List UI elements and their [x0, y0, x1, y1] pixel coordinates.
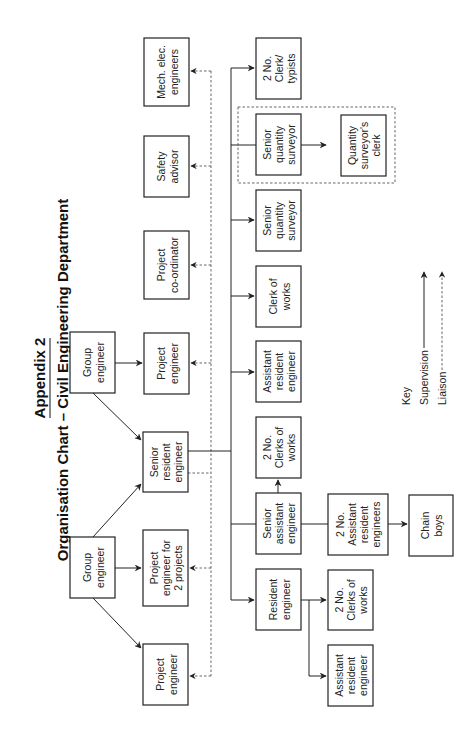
node-assistant-resident-engineers-2: 2 No.Assistantresidentengineers	[328, 494, 388, 555]
appendix-title: Appendix 2	[31, 338, 48, 419]
node-clerk-of-works: Clerk ofworks	[256, 266, 301, 327]
node-project-engineer-b: Projectengineer	[144, 333, 189, 394]
node-resident-engineer: Residentengineer	[256, 569, 301, 630]
chart-title: Appendix 2 Organisation Chart – Civil En…	[31, 199, 71, 562]
svg-text:Mech. elec.engineers: Mech. elec.engineers	[155, 45, 180, 99]
node-assistant-resident-engineer-a: Assistantresidentengineer	[256, 341, 301, 402]
node-clerks-of-works-2-b: 2 No.Clerks ofworks	[328, 570, 373, 630]
svg-text:Seniorquantitysurveyor: Seniorquantitysurveyor	[261, 200, 297, 241]
node-mech-elec-engineers: Mech. elec.engineers	[144, 38, 189, 106]
svg-text:2 No.Clerk/typists: 2 No.Clerk/typists	[261, 54, 297, 84]
node-clerks-of-works-2-a: 2 No.Clerks ofworks	[256, 417, 301, 478]
node-project-coordinator: Projectco-ordinator	[144, 231, 189, 299]
svg-text:Seniorquantitysurveyor: Seniorquantitysurveyor	[261, 124, 297, 165]
svg-text:Clerk ofworks: Clerk ofworks	[267, 278, 292, 314]
org-chart: Appendix 2 Organisation Chart – Civil En…	[0, 0, 475, 746]
svg-text:Projectengineer: Projectengineer	[155, 343, 180, 384]
svg-text:Assistantresidentengineer: Assistantresidentengineer	[261, 350, 297, 393]
svg-text:Seniorresidentengineer: Seniorresidentengineer	[148, 441, 184, 482]
node-quantity-surveyors-clerk: Quantitysurveyor'sclerk	[341, 115, 386, 176]
node-clerk-typists: 2 No.Clerk/typists	[256, 38, 301, 99]
svg-text:Safetyadvisor: Safetyadvisor	[155, 149, 180, 183]
legend-liaison-label: Liaison	[436, 372, 448, 405]
node-senior-assistant-engineer: Seniorassistantengineer	[256, 493, 301, 554]
main-title: Organisation Chart – Civil Engineering D…	[54, 199, 71, 562]
svg-text:Projectengineer: Projectengineer	[154, 654, 179, 695]
node-senior-quantity-surveyor-b: Seniorquantitysurveyor	[256, 190, 301, 251]
legend-heading: Key	[400, 386, 412, 405]
node-senior-resident-engineer: Seniorresidentengineer	[143, 432, 188, 492]
liaison-lines	[188, 71, 211, 676]
node-senior-quantity-surveyor-a: Seniorquantitysurveyor	[256, 114, 301, 175]
svg-text:Seniorassistantengineer: Seniorassistantengineer	[261, 503, 297, 545]
legend-supervision-label: Supervision	[418, 350, 430, 405]
node-project-engineer-a: Projectengineer	[143, 644, 188, 705]
svg-text:Assistantresidentengineer: Assistantresidentengineer	[333, 654, 369, 697]
node-group-engineer-bottom: Groupengineer	[70, 537, 115, 598]
node-assistant-resident-engineer-b: Assistantresidentengineer	[328, 645, 373, 706]
node-project-engineer-2-projects: Projectengineer for2 projects	[143, 530, 188, 606]
legend: Key Supervision Liaison	[400, 272, 448, 405]
svg-text:Chainboys: Chainboys	[419, 512, 444, 540]
node-chain-boys: Chainboys	[409, 495, 453, 556]
node-safety-advisor: Safetyadvisor	[144, 136, 189, 197]
node-group-engineer-top: Groupengineer	[70, 332, 115, 393]
svg-text:Residentengineer: Residentengineer	[267, 579, 292, 621]
